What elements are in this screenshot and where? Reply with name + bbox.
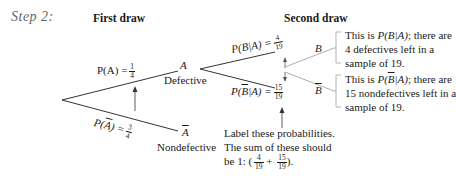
step-label: Step 2:: [11, 9, 54, 25]
callout-bottom: Label these probabilities. The sum of th…: [224, 126, 335, 171]
node-A-caption: Defective: [164, 74, 207, 86]
arrow-head-down-icon: [283, 77, 287, 82]
header-second-draw: Second draw: [284, 12, 348, 24]
node-Abar: A: [182, 126, 189, 138]
arrow-head-up-icon: [133, 86, 138, 92]
callout-lower: This is P(B|A); there are 15 nondefectiv…: [345, 72, 456, 114]
bracket-lower: [336, 75, 341, 107]
prob-Bbar-given-A-label: P(B|A) =1519: [231, 84, 283, 101]
header-first-draw: First draw: [93, 12, 145, 24]
node-Bbar: B: [315, 84, 322, 96]
callout-upper: This is P(B|A); there are 4 defectives l…: [345, 28, 452, 70]
node-A: A: [180, 59, 187, 71]
fraction: 14: [129, 63, 135, 80]
bracket-upper: [336, 32, 341, 63]
connector-lower: [285, 72, 334, 91]
arrow-head-up-icon: [280, 107, 285, 113]
node-B: B: [315, 42, 322, 54]
connector-upper: [285, 48, 334, 67]
node-Abar-caption: Nondefective: [157, 141, 216, 153]
arrow-head-up-icon: [283, 57, 287, 62]
prob-A-label: P(A) =14: [97, 63, 135, 80]
